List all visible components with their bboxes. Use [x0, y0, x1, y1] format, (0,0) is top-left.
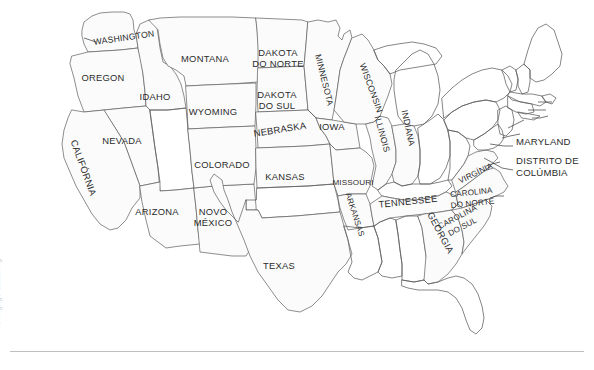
state-maryland[interactable] — [474, 124, 504, 150]
cape-cod-detail[interactable] — [542, 94, 556, 104]
callout-label-maryland[interactable]: MARYLAND — [516, 136, 571, 148]
state-vermont[interactable] — [502, 66, 518, 92]
callout-label-distrito-de-columbia[interactable]: DISTRITO DECOLÚMBIA — [516, 155, 579, 178]
copyright-credit: © Cengage Learning — [0, 258, 2, 334]
state-label-missouri[interactable]: MISSOURI — [332, 178, 373, 189]
state-label-kansas[interactable]: KANSAS — [265, 172, 305, 183]
state-maine[interactable] — [524, 24, 562, 82]
leader-line-new-jersey — [508, 120, 524, 128]
state-label-idaho[interactable]: IDAHO — [140, 92, 171, 103]
state-label-wyoming[interactable]: WYOMING — [189, 107, 238, 118]
state-label-oregon[interactable]: OREGON — [81, 73, 124, 84]
state-label-novo-mexico[interactable]: NOVOMÉXICO — [194, 206, 232, 228]
state-mississippi[interactable] — [374, 218, 402, 278]
state-label-texas[interactable]: TEXAS — [263, 261, 295, 272]
footer-divider-rule — [10, 351, 584, 352]
state-florida[interactable] — [402, 276, 484, 334]
state-label-dakota-do-sul[interactable]: DAKOTADO SUL — [257, 89, 296, 111]
state-label-iowa[interactable]: IOWA — [319, 122, 345, 133]
state-label-arizona[interactable]: ARIZONA — [135, 207, 178, 218]
leader-line-maryland — [490, 144, 513, 146]
state-nova-jersey[interactable] — [498, 106, 514, 136]
us-states-map-figure: WASHINGTONOREGONIDAHOMONTANAWYOMINGNEVAD… — [0, 0, 594, 370]
state-label-montana[interactable]: MONTANA — [181, 54, 229, 65]
state-label-nevada[interactable]: NEVADA — [102, 136, 141, 147]
state-new-hampshire[interactable] — [516, 64, 530, 94]
state-ohio[interactable] — [418, 114, 450, 184]
state-oklahoma[interactable] — [246, 184, 340, 218]
state-label-colorado[interactable]: COLORADO — [194, 160, 250, 171]
state-colorado[interactable] — [188, 126, 256, 188]
state-nova-york[interactable] — [442, 68, 512, 118]
state-pensilvania[interactable] — [444, 100, 500, 140]
state-label-dakota-do-norte[interactable]: DAKOTADO NORTE — [252, 47, 303, 69]
